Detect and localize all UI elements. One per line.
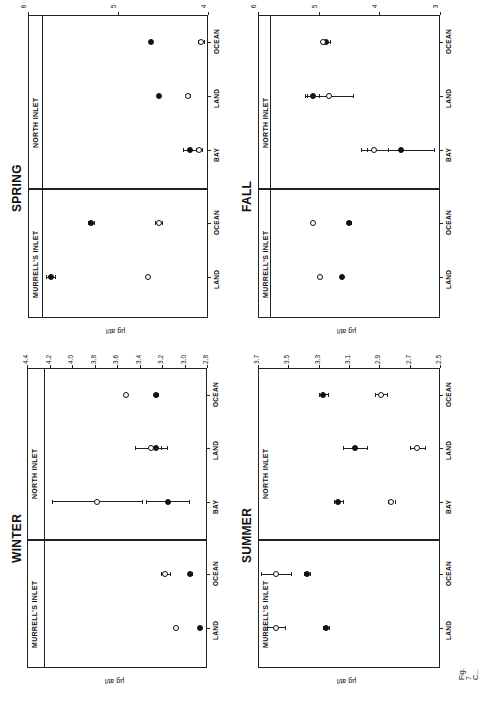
inlet-divider	[258, 188, 440, 190]
y-tick	[117, 365, 118, 368]
y-tick	[440, 12, 441, 15]
y-tick-label: 3.4	[135, 355, 142, 364]
label-murrells-inlet: MURRELL'S INLET	[262, 231, 269, 298]
y-tick	[27, 365, 28, 368]
error-cap	[52, 500, 53, 504]
y-tick-label: 3.1	[344, 355, 351, 364]
y-tick	[118, 12, 119, 15]
y-tick	[379, 12, 380, 15]
x-tick-label: LAND	[212, 621, 219, 640]
open-point	[198, 39, 204, 45]
error-cap	[135, 446, 136, 450]
x-tick-label: BAY	[445, 148, 452, 162]
y-tick	[379, 365, 380, 368]
x-tick-label: BAY	[212, 500, 219, 514]
x-tick-label: OCEAN	[212, 382, 219, 407]
reference-line	[270, 15, 271, 318]
y-tick	[319, 365, 320, 368]
x-tick	[207, 574, 210, 575]
x-tick-label: LAND	[212, 441, 219, 460]
y-axis-label: µg at/l	[337, 678, 356, 685]
label-north-inlet: NORTH INLET	[31, 449, 38, 499]
y-tick	[258, 12, 259, 15]
error-cap	[434, 148, 435, 152]
x-tick	[440, 42, 443, 43]
x-tick	[208, 223, 211, 224]
x-tick	[208, 277, 211, 278]
x-tick-label: LAND	[213, 89, 220, 108]
plot-frame	[28, 15, 208, 318]
error-cap	[46, 275, 47, 279]
y-tick	[50, 365, 51, 368]
x-tick	[207, 502, 210, 503]
error-cap	[162, 221, 163, 225]
label-murrells-inlet: MURRELL'S INLET	[31, 581, 38, 648]
error-cap	[170, 572, 171, 576]
x-tick-label: OCEAN	[445, 210, 452, 235]
y-tick	[258, 365, 259, 368]
error-cap	[189, 500, 190, 504]
error-cap	[361, 148, 362, 152]
x-tick	[208, 150, 211, 151]
y-tick-label: 2.8	[202, 355, 209, 364]
y-tick	[162, 365, 163, 368]
y-tick-label: 6	[20, 5, 27, 9]
x-tick	[440, 150, 443, 151]
x-tick-label: OCEAN	[445, 561, 452, 586]
y-tick-label: 5	[311, 5, 318, 9]
x-tick-label: LAND	[445, 621, 452, 640]
y-axis-label: µg at/l	[106, 328, 125, 335]
x-tick-label: BAY	[445, 500, 452, 514]
open-point	[273, 625, 279, 631]
y-tick-label: 4.4	[22, 355, 29, 364]
error-cap	[142, 500, 143, 504]
error-cap	[183, 148, 184, 152]
error-cap	[329, 626, 330, 630]
x-tick-label: OCEAN	[445, 29, 452, 54]
reference-line	[44, 368, 45, 668]
x-tick-label: LAND	[445, 89, 452, 108]
error-cap	[388, 148, 389, 152]
plot-frame	[258, 15, 440, 318]
filled-point	[156, 93, 162, 99]
open-point	[94, 499, 100, 505]
panel-title: WINTER	[10, 514, 24, 563]
x-tick-label: OCEAN	[213, 210, 220, 235]
x-tick	[440, 448, 443, 449]
x-tick-label: OCEAN	[213, 29, 220, 54]
y-tick	[207, 365, 208, 368]
x-tick-label: BAY	[213, 148, 220, 162]
x-tick	[440, 574, 443, 575]
y-tick-label: 4.0	[67, 355, 74, 364]
error-cap	[285, 626, 286, 630]
reference-line	[258, 368, 259, 668]
y-axis-label: µg at/l	[337, 328, 356, 335]
plot-frame	[258, 368, 440, 668]
error-cap	[146, 500, 147, 504]
x-tick	[207, 448, 210, 449]
x-tick	[440, 395, 443, 396]
error-cap	[261, 572, 262, 576]
open-point	[173, 625, 179, 631]
x-tick	[208, 96, 211, 97]
y-tick-label: 4.2	[45, 355, 52, 364]
open-point	[123, 392, 129, 398]
y-tick	[208, 12, 209, 15]
x-tick-label: LAND	[213, 270, 220, 289]
error-cap	[267, 626, 268, 630]
y-tick-label: 3.6	[112, 355, 119, 364]
y-tick-label: 2.9	[374, 355, 381, 364]
x-tick	[207, 628, 210, 629]
open-point	[310, 220, 316, 226]
x-tick-label: OCEAN	[445, 382, 452, 407]
error-cap	[291, 572, 292, 576]
filled-point	[398, 147, 404, 153]
inlet-divider	[258, 539, 440, 541]
error-cap	[328, 393, 329, 397]
filled-point	[165, 499, 171, 505]
y-tick-label: 6	[250, 5, 257, 9]
x-tick	[207, 395, 210, 396]
x-tick	[208, 42, 211, 43]
label-murrells-inlet: MURRELL'S INLET	[32, 231, 39, 298]
y-tick	[185, 365, 186, 368]
